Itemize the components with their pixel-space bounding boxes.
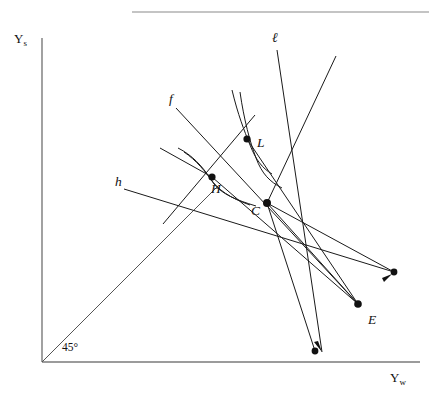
indifference-curve-at-L — [232, 90, 272, 174]
point-right-dot — [391, 269, 398, 276]
point-C — [263, 199, 271, 207]
figure-root: L H C E ℓ f h 45° Ys Yw — [0, 0, 434, 400]
line-ell — [277, 50, 322, 352]
point-label-H: H — [210, 181, 222, 196]
y-axis-label-sub: s — [23, 38, 27, 48]
line-through-l-lower-left — [163, 115, 255, 224]
x-axis-label: Yw — [390, 370, 406, 387]
point-label-C: C — [251, 203, 261, 218]
45-degree-ray — [42, 186, 218, 362]
line-upright-through-c — [267, 56, 336, 203]
arrow-to-right-dot-icon — [382, 274, 392, 282]
angle-annotation-45: 45° — [62, 341, 79, 353]
line-label-h: h — [115, 174, 122, 189]
point-lower-dot — [312, 348, 319, 355]
point-label-L: L — [256, 135, 265, 150]
y-axis-label: Ys — [14, 31, 27, 48]
point-H — [208, 173, 215, 180]
line-label-ell: ℓ — [272, 30, 278, 45]
diagram-svg: L H C E ℓ f h 45° Ys Yw — [0, 0, 434, 400]
point-L — [243, 135, 250, 142]
line-label-f: f — [169, 91, 175, 106]
line-h — [124, 189, 394, 272]
point-label-E: E — [367, 312, 377, 327]
x-axis-label-sub: w — [399, 377, 406, 387]
point-E — [354, 300, 362, 308]
indifference-curve-at-H-inner — [184, 152, 256, 206]
